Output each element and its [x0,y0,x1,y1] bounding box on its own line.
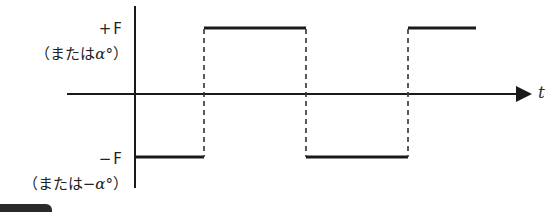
square-wave-diagram [0,0,552,212]
time-axis-label: t [538,82,545,102]
figure-badge [0,204,52,212]
time-axis-arrow-icon [516,86,532,102]
